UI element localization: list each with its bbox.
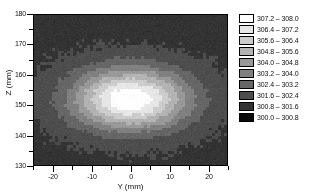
legend-swatch	[239, 113, 254, 122]
x-tick-minor	[228, 166, 229, 170]
legend-row: 307.2 – 308.0	[239, 13, 325, 24]
legend-row: 304.8 – 305.6	[239, 46, 325, 57]
legend-label: 303.2 – 304.0	[257, 69, 299, 78]
legend-label: 306.4 – 307.2	[257, 25, 299, 34]
y-tick-label: 180	[2, 10, 26, 18]
legend: 307.2 – 308.0306.4 – 307.2305.6 – 306.43…	[239, 13, 325, 123]
legend-label: 301.6 – 302.4	[257, 91, 299, 100]
figure-container: 130140150160170180 -20-1001020 Z (mm) Y …	[0, 0, 326, 195]
legend-row: 300.0 – 300.8	[239, 112, 325, 123]
legend-swatch	[239, 25, 254, 34]
legend-row: 306.4 – 307.2	[239, 24, 325, 35]
legend-row: 300.8 – 301.6	[239, 101, 325, 112]
y-tick-major	[27, 75, 33, 76]
legend-label: 300.0 – 300.8	[257, 113, 299, 122]
x-tick-label: -10	[80, 173, 104, 181]
x-tick-minor	[189, 166, 190, 170]
heatmap-image	[34, 15, 227, 165]
x-tick-label: -20	[41, 173, 65, 181]
legend-swatch	[239, 14, 254, 23]
y-tick-label: 170	[2, 40, 26, 48]
x-tick-label: 10	[158, 173, 182, 181]
legend-swatch	[239, 47, 254, 56]
legend-swatch	[239, 58, 254, 67]
legend-row: 304.0 – 304.8	[239, 57, 325, 68]
legend-row: 305.6 – 306.4	[239, 35, 325, 46]
legend-label: 307.2 – 308.0	[257, 14, 299, 23]
plot-area	[33, 14, 228, 166]
y-tick-major	[27, 136, 33, 137]
legend-label: 305.6 – 306.4	[257, 36, 299, 45]
y-tick-minor	[29, 120, 33, 121]
legend-label: 304.8 – 305.6	[257, 47, 299, 56]
legend-label: 304.0 – 304.8	[257, 58, 299, 67]
y-tick-label: 130	[2, 162, 26, 170]
y-tick-major	[27, 14, 33, 15]
y-axis-title: Z (mm)	[4, 61, 13, 105]
legend-swatch	[239, 80, 254, 89]
y-tick-minor	[29, 29, 33, 30]
x-axis-title: Y (mm)	[33, 182, 228, 191]
x-tick-major	[92, 166, 93, 172]
y-tick-minor	[29, 151, 33, 152]
x-tick-major	[131, 166, 132, 172]
legend-row: 301.6 – 302.4	[239, 90, 325, 101]
legend-label: 302.4 – 303.2	[257, 80, 299, 89]
y-tick-minor	[29, 90, 33, 91]
legend-label: 300.8 – 301.6	[257, 102, 299, 111]
legend-swatch	[239, 102, 254, 111]
y-tick-label: 140	[2, 132, 26, 140]
x-tick-major	[170, 166, 171, 172]
x-tick-minor	[150, 166, 151, 170]
x-tick-minor	[111, 166, 112, 170]
y-tick-minor	[29, 60, 33, 61]
x-tick-label: 0	[119, 173, 143, 181]
legend-swatch	[239, 69, 254, 78]
y-tick-major	[27, 105, 33, 106]
y-tick-major	[27, 44, 33, 45]
x-tick-minor	[33, 166, 34, 170]
legend-row: 303.2 – 304.0	[239, 68, 325, 79]
x-tick-minor	[72, 166, 73, 170]
legend-swatch	[239, 91, 254, 100]
x-tick-major	[53, 166, 54, 172]
x-tick-major	[209, 166, 210, 172]
x-tick-label: 20	[197, 173, 221, 181]
legend-swatch	[239, 36, 254, 45]
legend-row: 302.4 – 303.2	[239, 79, 325, 90]
